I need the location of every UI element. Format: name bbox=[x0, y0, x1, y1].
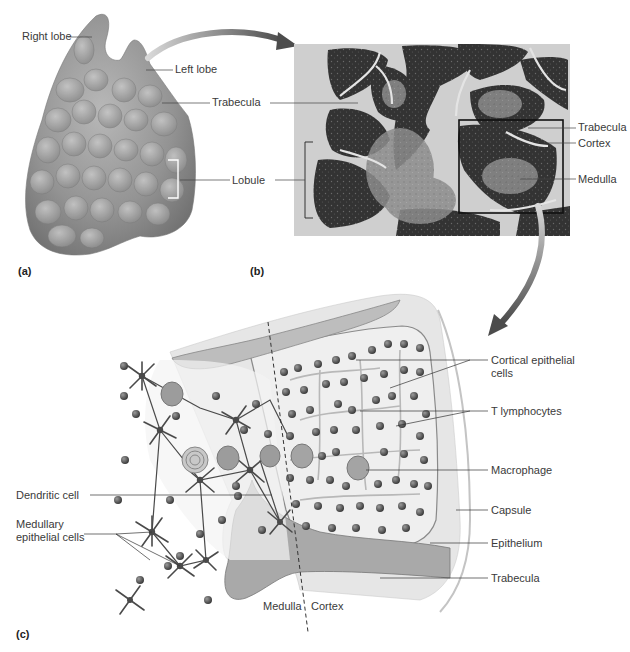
arrow-a-to-b bbox=[148, 32, 282, 58]
thymus-gross-illustration bbox=[26, 14, 230, 255]
label-lobule: Lobule bbox=[232, 174, 265, 187]
label-left-lobe: Left lobe bbox=[175, 63, 217, 76]
label-t-lymphocytes: T lymphocytes bbox=[491, 405, 562, 418]
label-medulla-b: Medulla bbox=[578, 173, 617, 186]
thymus-figure bbox=[0, 0, 630, 652]
label-trabecula-c: Trabecula bbox=[491, 572, 540, 585]
label-macrophage: Macrophage bbox=[491, 464, 552, 477]
label-right-lobe: Right lobe bbox=[22, 30, 72, 43]
label-cortex-b: Cortex bbox=[578, 137, 610, 150]
thymus-tissue-diagram bbox=[84, 294, 488, 632]
label-medulla-c: Medulla bbox=[263, 600, 302, 613]
panel-label-c: (c) bbox=[16, 628, 29, 640]
label-cortex-c: Cortex bbox=[311, 600, 343, 613]
label-trabecula-a: Trabecula bbox=[212, 96, 261, 109]
label-cortical-epithelial-cells: Cortical epithelial cells bbox=[491, 354, 581, 380]
panel-label-a: (a) bbox=[18, 265, 31, 277]
label-epithelium: Epithelium bbox=[491, 537, 542, 550]
label-dendritic-cell: Dendritic cell bbox=[16, 489, 79, 502]
label-capsule: Capsule bbox=[491, 504, 531, 517]
thymus-micrograph bbox=[270, 44, 576, 236]
label-trabecula-b: Trabecula bbox=[578, 121, 627, 134]
panel-label-b: (b) bbox=[250, 265, 264, 277]
label-medullary-epithelial-cells: Medullary epithelial cells bbox=[16, 518, 88, 544]
